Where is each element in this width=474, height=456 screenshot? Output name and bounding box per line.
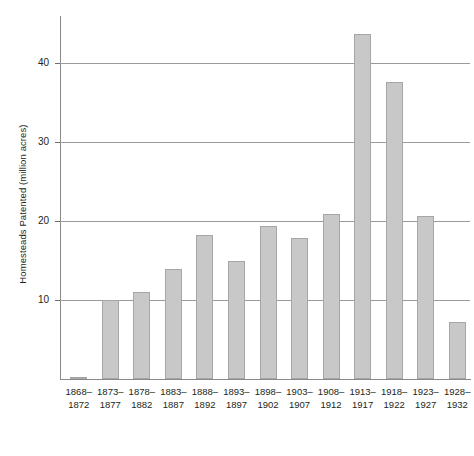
x-axis-tick-label: 1898–1902 [252, 385, 284, 411]
bar [291, 238, 308, 379]
bar [449, 322, 466, 379]
x-axis-tick-label: 1868–1872 [63, 385, 95, 411]
bar [260, 226, 277, 379]
x-axis-tick-label: 1893–1897 [221, 385, 253, 411]
x-axis-tick-label: 1923–1927 [410, 385, 442, 411]
bar [102, 300, 119, 379]
bar [70, 377, 87, 379]
x-axis-labels: 1868–18721873–18771878–18821883–18871888… [60, 385, 471, 425]
bar [323, 214, 340, 379]
y-axis-tick-label: 30 [23, 137, 49, 147]
bar [228, 261, 245, 379]
x-axis-tick-label: 1918–1922 [378, 385, 410, 411]
y-axis-tick-label: 10 [23, 295, 49, 305]
x-axis-tick-label: 1878–1882 [126, 385, 158, 411]
bar [133, 292, 150, 379]
x-axis-tick-label: 1913–1917 [347, 385, 379, 411]
bar [165, 269, 182, 379]
x-axis-tick-label: 1903–1907 [284, 385, 316, 411]
bar [386, 82, 403, 380]
bar-chart: Homesteads Patented (million acres) 1020… [0, 0, 474, 456]
x-axis-tick-label: 1873–1877 [95, 385, 127, 411]
x-axis-tick-label: 1908–1912 [315, 385, 347, 411]
y-axis-tick-label: 40 [23, 58, 49, 68]
bar [417, 216, 434, 379]
y-axis-tick-label: 20 [23, 216, 49, 226]
y-axis-title: Homesteads Patented (million acres) [14, 14, 32, 394]
x-axis-tick-label: 1928–1932 [441, 385, 473, 411]
x-axis-tick-label: 1888–1892 [189, 385, 221, 411]
bar [354, 34, 371, 379]
bar [196, 235, 213, 379]
x-axis-tick-label: 1883–1887 [158, 385, 190, 411]
bars-layer [60, 16, 471, 380]
